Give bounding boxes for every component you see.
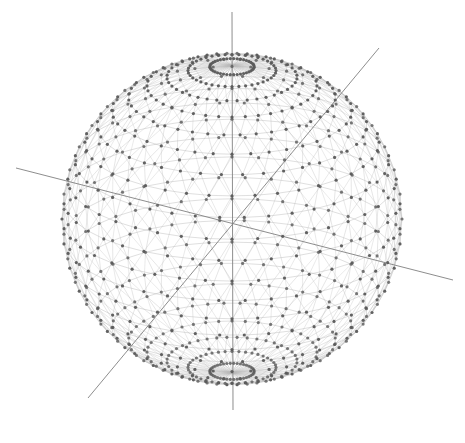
- vertex-dot: [351, 261, 354, 264]
- vertex-dot: [75, 214, 78, 217]
- vertex-dot: [68, 187, 71, 190]
- vertex-dot: [331, 348, 334, 351]
- vertex-dot: [268, 368, 271, 371]
- vertex-dot: [170, 329, 173, 332]
- vertex-dot: [78, 172, 81, 175]
- vertex-dot: [340, 191, 343, 194]
- vertex-dot: [219, 377, 222, 380]
- vertex-dot: [224, 85, 227, 88]
- vertex-dot: [363, 213, 366, 216]
- vertex-dot: [130, 104, 133, 107]
- vertex-dot: [256, 316, 259, 319]
- vertex-dot: [332, 233, 335, 236]
- vertex-dot: [163, 368, 166, 371]
- vertex-dot: [156, 204, 159, 207]
- vertex-dot: [96, 128, 99, 131]
- vertex-dot: [264, 339, 267, 342]
- vertex-dot: [99, 270, 102, 273]
- vertex-dot: [249, 152, 252, 155]
- vertex-dot: [395, 178, 398, 181]
- vertex-dot: [218, 216, 221, 219]
- vertex-dot: [311, 360, 314, 363]
- vertex-dot: [398, 208, 401, 211]
- vertex-dot: [217, 176, 220, 179]
- vertex-dot: [74, 272, 77, 275]
- vertex-dot: [83, 141, 86, 144]
- vertex-dot: [199, 359, 202, 362]
- vertex-dot: [256, 198, 259, 201]
- vertex-dot: [276, 192, 279, 195]
- vertex-dot: [368, 181, 371, 184]
- vertex-dot: [242, 363, 245, 366]
- vertex-dot: [262, 172, 265, 175]
- vertex-dot: [257, 114, 260, 117]
- vertex-dot: [285, 287, 288, 290]
- vertex-dot: [145, 357, 148, 360]
- vertex-dot: [350, 196, 353, 199]
- vertex-dot: [295, 358, 298, 361]
- vertex-dot: [63, 208, 66, 211]
- vertex-dot: [301, 73, 304, 76]
- vertex-dot: [332, 320, 335, 323]
- vertex-dot: [217, 54, 220, 57]
- vertex-dot: [282, 78, 285, 81]
- vertex-dot: [114, 300, 117, 303]
- vertex-dot: [382, 246, 385, 249]
- vertex-dot: [62, 202, 65, 205]
- vertex-dot: [180, 376, 183, 379]
- vertex-dot: [121, 284, 124, 287]
- vertex-dot: [164, 246, 167, 249]
- vertex-dot: [283, 277, 286, 280]
- vertex-dot: [87, 270, 90, 273]
- vertex-dot: [376, 181, 379, 184]
- vertex-dot: [255, 376, 258, 379]
- vertex-dot: [85, 254, 88, 257]
- vertex-dot: [285, 70, 288, 73]
- vertex-dot: [239, 377, 242, 380]
- vertex-dot: [126, 332, 129, 335]
- vertex-dot: [340, 244, 343, 247]
- vertex-dot: [264, 96, 267, 99]
- vertex-dot: [219, 72, 222, 75]
- vertex-dot: [305, 204, 308, 207]
- vertex-dot: [334, 98, 337, 101]
- vertex-dot: [152, 71, 155, 74]
- vertex-dot: [295, 294, 298, 297]
- vertex-dot: [241, 262, 244, 265]
- vertex-dot: [83, 294, 86, 297]
- vertex-dot: [301, 144, 304, 147]
- vertex-dot: [166, 358, 169, 361]
- vertex-dot: [282, 265, 285, 268]
- vertex-dot: [99, 135, 102, 138]
- vertex-dot: [130, 331, 133, 334]
- vertex-dot: [245, 376, 248, 379]
- vertex-dot: [130, 348, 133, 351]
- vertex-dot: [317, 184, 320, 187]
- vertex-dot: [291, 85, 294, 88]
- vertex-dot: [205, 82, 208, 85]
- vertex-dot: [99, 323, 102, 326]
- vertex-dot: [281, 200, 284, 203]
- vertex-dot: [135, 110, 138, 113]
- vertex-dot: [189, 64, 192, 67]
- vertex-dot: [210, 83, 213, 86]
- vertex-dot: [269, 112, 272, 115]
- vertex-dot: [142, 115, 145, 118]
- vertex-dot: [134, 226, 137, 229]
- vertex-dot: [364, 246, 367, 249]
- vertex-dot: [285, 128, 288, 131]
- vertex-dot: [313, 227, 316, 230]
- vertex-dot: [167, 70, 170, 73]
- vertex-dot: [273, 57, 276, 60]
- vertex-dot: [327, 226, 330, 229]
- vertex-dot: [191, 359, 194, 362]
- vertex-dot: [244, 351, 247, 354]
- vertex-dot: [112, 333, 115, 336]
- vertex-dot: [398, 242, 401, 245]
- vertex-dot: [199, 377, 202, 380]
- vertex-dot: [148, 110, 151, 113]
- vertex-dot: [291, 369, 294, 372]
- vertex-dot: [268, 284, 271, 287]
- vertex-dot: [67, 212, 70, 215]
- vertex-dot: [199, 263, 202, 266]
